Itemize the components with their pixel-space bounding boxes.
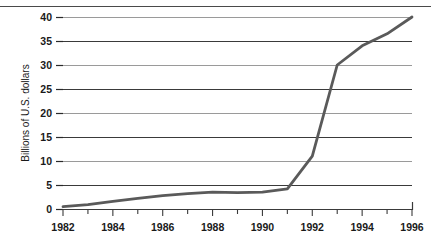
- x-tick-label: 1986: [151, 221, 175, 233]
- y-tick-label: 0: [46, 203, 52, 215]
- y-tick-label: 5: [46, 179, 52, 191]
- x-tick-label: 1992: [301, 221, 325, 233]
- y-tick-label: 25: [40, 83, 52, 95]
- x-tick-label: 1996: [400, 221, 424, 233]
- line-chart: 0510152025303540 19821984198619881990199…: [0, 0, 431, 242]
- x-tick-label: 1984: [101, 221, 125, 233]
- x-tick-label: 1990: [251, 221, 275, 233]
- y-tick-label: 35: [40, 35, 52, 47]
- x-tick-label: 1988: [201, 221, 225, 233]
- y-tick-label: 10: [40, 155, 52, 167]
- y-tick-label: 40: [40, 11, 52, 23]
- chart-canvas: 0510152025303540 19821984198619881990199…: [0, 0, 431, 242]
- x-tick-label: 1994: [350, 221, 374, 233]
- y-tick-label: 15: [40, 131, 52, 143]
- y-tick-label: 20: [40, 107, 52, 119]
- y-axis-title: Billions of U.S. dollars: [20, 64, 31, 161]
- y-tick-label: 30: [40, 59, 52, 71]
- x-tick-label: 1982: [51, 221, 75, 233]
